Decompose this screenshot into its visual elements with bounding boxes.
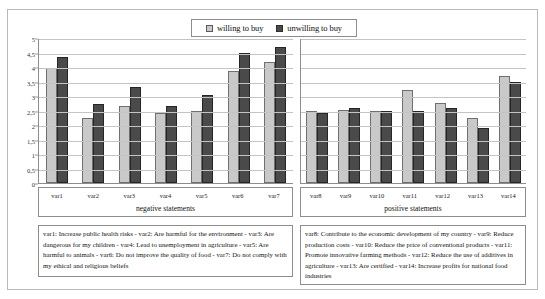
- gridline: [39, 39, 293, 40]
- bar-willing-to-buy: [467, 118, 478, 183]
- y-axis-tick-label: 0,5: [27, 166, 35, 173]
- category-box-negative: var1var2var3var4var5var6var7 negative st…: [38, 187, 293, 217]
- gridline: [39, 83, 293, 84]
- category-ticks-positive: var8var9var10var11var12var13var14: [301, 190, 525, 201]
- y-axis: 00,511,522,533,544,55: [21, 39, 38, 184]
- gridline: [301, 155, 526, 156]
- gridline: [39, 97, 293, 98]
- panel-positive-statements: [300, 39, 526, 184]
- category-tick-label: var5: [196, 192, 208, 199]
- bar-willing-to-buy: [82, 118, 93, 183]
- legend-swatch-dark-square-icon: [276, 25, 283, 32]
- legend-swatch-light-square-icon: [206, 25, 213, 32]
- category-tick-label: var7: [268, 192, 280, 199]
- panel-negative-statements: [38, 39, 293, 184]
- chart-legend: willing to buy unwilling to buy: [191, 19, 357, 37]
- bar-willing-to-buy: [306, 111, 317, 184]
- bar-unwilling-to-buy: [93, 104, 104, 183]
- bar-unwilling-to-buy: [166, 106, 177, 183]
- bar-unwilling-to-buy: [57, 57, 68, 183]
- caption-positive-statements: var8: Contribute to the economic develop…: [300, 225, 526, 285]
- category-tick-label: var12: [435, 192, 450, 199]
- bar-willing-to-buy: [228, 71, 239, 183]
- y-axis-tick-label: 1,5: [27, 137, 35, 144]
- panels-container: [38, 39, 526, 184]
- bar-willing-to-buy: [119, 106, 130, 183]
- bar-willing-to-buy: [155, 113, 166, 183]
- category-tick-label: var6: [232, 192, 244, 199]
- category-tick-label: var14: [501, 192, 516, 199]
- category-tick-label: var13: [468, 192, 483, 199]
- gridline: [39, 155, 293, 156]
- bar-unwilling-to-buy: [239, 53, 250, 183]
- category-tick-label: var10: [369, 192, 384, 199]
- gridline: [301, 112, 526, 113]
- category-ticks-negative: var1var2var3var4var5var6var7: [39, 190, 292, 201]
- gridline: [301, 83, 526, 84]
- category-title-positive: positive statements: [301, 204, 525, 213]
- gridline: [301, 141, 526, 142]
- bar-willing-to-buy: [370, 111, 381, 184]
- category-tick-label: var3: [124, 192, 136, 199]
- gridline: [39, 170, 293, 171]
- gridline: [301, 170, 526, 171]
- bar-unwilling-to-buy: [349, 108, 360, 183]
- category-tick-label: var11: [402, 192, 417, 199]
- gridline: [39, 54, 293, 55]
- gridline: [301, 39, 526, 40]
- gridline: [301, 54, 526, 55]
- gridline: [39, 112, 293, 113]
- gridline: [301, 97, 526, 98]
- gridline: [301, 126, 526, 127]
- bar-willing-to-buy: [435, 103, 446, 183]
- caption-negative-statements: var1: Increase public health risks - var…: [38, 225, 293, 277]
- gridline: [301, 68, 526, 69]
- bar-willing-to-buy: [191, 111, 202, 183]
- category-title-negative: negative statements: [39, 204, 292, 213]
- bar-willing-to-buy: [499, 76, 510, 183]
- category-box-positive: var8var9var10var11var12var13var14 positi…: [300, 187, 526, 217]
- legend-label-willing-to-buy: willing to buy: [217, 23, 263, 33]
- bar-unwilling-to-buy: [381, 111, 392, 183]
- y-axis-tick-label: 2,5: [27, 108, 35, 115]
- category-tick-label: var8: [310, 192, 322, 199]
- chart-figure: willing to buy unwilling to buy 00,511,5…: [7, 9, 538, 290]
- legend-item-unwilling-to-buy: unwilling to buy: [276, 23, 342, 33]
- y-axis-tick-label: 4,5: [27, 50, 35, 57]
- bar-unwilling-to-buy: [317, 113, 328, 183]
- plot-area: 00,511,522,533,544,55: [21, 39, 526, 194]
- category-tick-label: var1: [51, 192, 63, 199]
- bar-willing-to-buy: [264, 62, 275, 183]
- category-tick-label: var2: [87, 192, 99, 199]
- bar-unwilling-to-buy: [413, 111, 424, 184]
- bar-unwilling-to-buy: [446, 108, 457, 183]
- legend-item-willing-to-buy: willing to buy: [206, 23, 263, 33]
- gridline: [39, 126, 293, 127]
- category-tick-label: var9: [340, 192, 352, 199]
- y-axis-tick-label: 3,5: [27, 79, 35, 86]
- legend-label-unwilling-to-buy: unwilling to buy: [287, 23, 342, 33]
- gridline: [39, 141, 293, 142]
- category-label-boxes: var1var2var3var4var5var6var7 negative st…: [38, 187, 524, 217]
- gridline: [39, 68, 293, 69]
- bar-willing-to-buy: [338, 110, 349, 183]
- category-tick-label: var4: [160, 192, 172, 199]
